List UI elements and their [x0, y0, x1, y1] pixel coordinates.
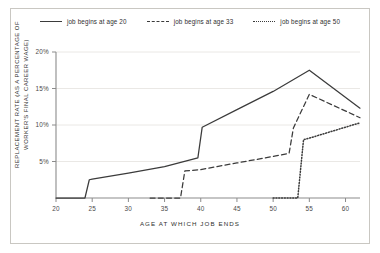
series-line-2: [273, 123, 360, 198]
svg-text:35: 35: [161, 205, 169, 212]
chart-canvas: 5%10%15%20% 202530354045505560: [10, 8, 370, 244]
svg-text:30: 30: [125, 205, 133, 212]
chart-figure: job begins at age 20 job begins at age 3…: [0, 0, 380, 253]
data-series-layer: [56, 70, 360, 198]
svg-text:55: 55: [306, 205, 314, 212]
svg-text:10%: 10%: [36, 121, 50, 128]
svg-text:20: 20: [52, 205, 60, 212]
gridlines: [56, 52, 360, 162]
svg-text:40: 40: [197, 205, 205, 212]
series-line-1: [150, 94, 360, 198]
svg-text:25: 25: [88, 205, 96, 212]
x-axis-ticks: 202530354045505560: [52, 198, 349, 212]
svg-text:50: 50: [269, 205, 277, 212]
svg-text:45: 45: [233, 205, 241, 212]
series-line-0: [56, 70, 360, 198]
y-axis-title: REPLACEMENT RATE (AS A PERCENTAGE OF WOR…: [13, 20, 30, 170]
x-axis-title: AGE AT WHICH JOB ENDS: [10, 220, 370, 227]
plot-area: 5%10%15%20% 202530354045505560 REPLACEME…: [10, 8, 370, 244]
y-axis-ticks: 5%10%15%20%: [36, 48, 56, 164]
svg-text:60: 60: [342, 205, 350, 212]
svg-text:15%: 15%: [36, 85, 50, 92]
svg-text:5%: 5%: [39, 158, 49, 165]
svg-text:20%: 20%: [36, 48, 50, 55]
